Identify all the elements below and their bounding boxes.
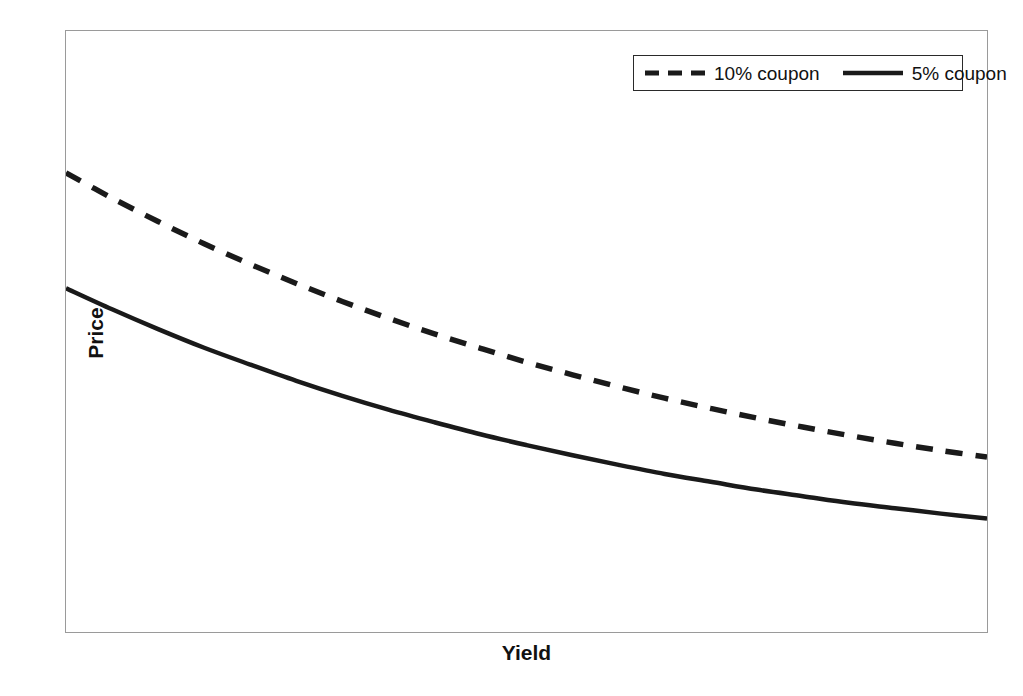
legend-label-10-percent-coupon: 10% coupon	[714, 64, 820, 83]
legend-swatch-solid-icon	[842, 66, 904, 80]
legend-swatch-dashed-icon	[644, 66, 706, 80]
legend-label-5-percent-coupon: 5% coupon	[912, 64, 1007, 83]
series-line-5-percent-coupon	[66, 288, 987, 518]
plot-area: Price	[65, 30, 988, 633]
series-line-10-percent-coupon	[66, 173, 987, 457]
chart-legend: 10% coupon 5% coupon	[633, 55, 963, 91]
legend-entry-5-percent-coupon: 5% coupon	[842, 64, 1007, 83]
legend-entry-10-percent-coupon: 10% coupon	[644, 64, 820, 83]
y-axis-title: Price	[66, 31, 126, 634]
plot-canvas	[66, 31, 987, 632]
y-axis-title-text: Price	[84, 307, 108, 358]
x-axis-title: Yield	[65, 641, 988, 665]
price-yield-chart: Price 10% coupon 5% coupon Yield	[0, 0, 1023, 696]
